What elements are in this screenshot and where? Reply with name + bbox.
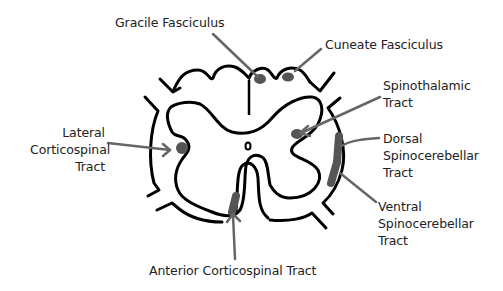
anterior-corticospinal-tract-blob (232, 196, 236, 212)
cuneate-fasciculus-pointer (295, 49, 321, 71)
lateral-corticospinal-arrow (108, 143, 170, 150)
label-dorsal-spinocerebellar-tract: Dorsal Spinocerebellar Tract (383, 130, 479, 181)
ventral-spinocerebellar-pointer (340, 173, 376, 202)
label-spinothalamic-tract: Spinothalamic Tract (383, 77, 471, 111)
cuneate-fasciculus-tract (282, 73, 294, 82)
lateral-corticospinal-tract-blob (176, 142, 188, 154)
anterior-corticospinal-arrow (233, 215, 235, 259)
ventral-spinocerebellar-tract-blob (331, 162, 337, 183)
label-anterior-corticospinal-tract: Anterior Corticospinal Tract (149, 262, 316, 279)
gracile-fasciculus-pointer (213, 34, 258, 77)
label-gracile-fasciculus: Gracile Fasciculus (115, 14, 224, 31)
dorsal-right-spike (310, 73, 334, 91)
gray-matter-outline (168, 97, 322, 216)
central-canal (246, 143, 251, 150)
spinothalamic-tract-arrow (301, 97, 380, 133)
label-lateral-corticospinal-tract: Lateral Corticospinal Tract (30, 124, 105, 175)
label-cuneate-fasciculus: Cuneate Fasciculus (325, 36, 443, 53)
spinal-cord-diagram: Gracile Fasciculus Cuneate Fasciculus Sp… (0, 0, 503, 291)
dorsal-spinocerebellar-pointer (341, 138, 379, 146)
label-ventral-spinocerebellar-tract: Ventral Spinocerebellar Tract (378, 198, 474, 249)
ventral-right-outer (270, 213, 326, 228)
